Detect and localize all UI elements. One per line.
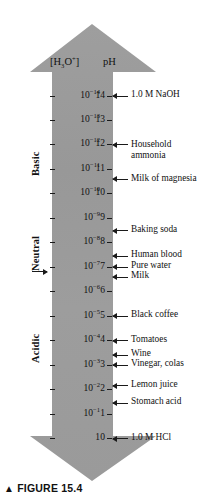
tick-left-14 xyxy=(50,96,55,97)
tick-right-6 xyxy=(107,291,112,292)
region-label-basic: Basic xyxy=(30,151,41,175)
callout-leader-line-2 xyxy=(113,179,128,180)
tick-left-1 xyxy=(50,414,55,415)
callout-leader-line-10 xyxy=(113,365,128,366)
tick-right-9 xyxy=(107,218,112,219)
ph-value-14: 14 xyxy=(89,91,105,101)
tick-left-3 xyxy=(50,365,55,366)
ph-value-2: 2 xyxy=(89,384,105,394)
callout-label-1: Household ammonia xyxy=(131,139,201,162)
callout-leader-line-9 xyxy=(113,355,128,356)
tick-right-8 xyxy=(107,242,112,243)
callout-leader-line-12 xyxy=(113,403,128,404)
ph-value-8: 8 xyxy=(89,237,105,247)
callout-leader-line-6 xyxy=(113,277,128,278)
tick-left-0 xyxy=(50,438,55,439)
tick-left-4 xyxy=(50,340,55,341)
ph-scale-figure: [H3O+] pH Basic Neutral Acidic 10−141410… xyxy=(0,0,202,499)
callout-label-0: 1.0 M NaOH xyxy=(131,90,180,99)
tick-left-12 xyxy=(50,144,55,145)
tick-right-10 xyxy=(107,193,112,194)
callout-leader-line-8 xyxy=(113,340,128,341)
ph-value-6: 6 xyxy=(89,286,105,296)
callout-label-11: Lemon juice xyxy=(131,380,178,389)
callout-leader-line-4 xyxy=(113,256,128,257)
callout-leader-line-13 xyxy=(113,438,128,439)
ph-value-12: 12 xyxy=(89,139,105,149)
callout-label-6: Milk xyxy=(131,271,149,280)
ph-value-10: 10 xyxy=(89,188,105,198)
ph-value-5: 5 xyxy=(89,311,105,321)
ph-column-header: pH xyxy=(103,57,116,68)
tick-left-11 xyxy=(50,169,55,170)
callout-leader-line-1 xyxy=(113,144,128,145)
caption-text: FIGURE 15.4 xyxy=(17,482,82,494)
callout-label-4: Human blood xyxy=(131,250,182,259)
tick-right-13 xyxy=(107,120,112,121)
tick-left-8 xyxy=(50,242,55,243)
tick-left-10 xyxy=(50,193,55,194)
tick-left-9 xyxy=(50,218,55,219)
callout-leader-line-7 xyxy=(113,316,128,317)
callout-label-3: Baking soda xyxy=(131,225,177,234)
ph-value-11: 11 xyxy=(89,164,105,174)
concentration-column-header: [H3O+] xyxy=(50,57,79,68)
tick-left-2 xyxy=(50,389,55,390)
tick-right-2 xyxy=(107,389,112,390)
callout-label-12: Stomach acid xyxy=(131,397,181,406)
callout-label-2: Milk of magnesia xyxy=(131,173,201,185)
region-label-acidic: Acidic xyxy=(30,334,41,363)
callout-label-8: Tomatoes xyxy=(131,335,167,344)
tick-left-6 xyxy=(50,291,55,292)
callout-leader-line-11 xyxy=(113,385,128,386)
caption-triangle-icon: ▲ xyxy=(4,483,14,494)
callout-leader-line-3 xyxy=(113,230,128,231)
callout-label-7: Black coffee xyxy=(131,310,178,319)
ph-value-0: 0 xyxy=(89,433,105,443)
neutral-pointer-arrow xyxy=(32,271,47,272)
tick-left-13 xyxy=(50,120,55,121)
callout-label-10: Vinegar, colas xyxy=(131,359,184,368)
tick-left-7 xyxy=(50,267,55,268)
region-label-neutral: Neutral xyxy=(30,236,41,271)
tick-left-5 xyxy=(50,316,55,317)
figure-caption: ▲ FIGURE 15.4 xyxy=(4,482,82,494)
ph-value-4: 4 xyxy=(89,335,105,345)
ph-value-7: 7 xyxy=(89,262,105,272)
tick-right-11 xyxy=(107,169,112,170)
ph-value-3: 3 xyxy=(89,360,105,370)
ph-value-1: 1 xyxy=(89,409,105,419)
callout-leader-line-0 xyxy=(113,96,128,97)
callout-leader-line-5 xyxy=(113,267,128,268)
tick-right-1 xyxy=(107,414,112,415)
callout-label-13: 1.0 M HCl xyxy=(131,433,171,442)
ph-value-9: 9 xyxy=(89,213,105,223)
ph-value-13: 13 xyxy=(89,115,105,125)
